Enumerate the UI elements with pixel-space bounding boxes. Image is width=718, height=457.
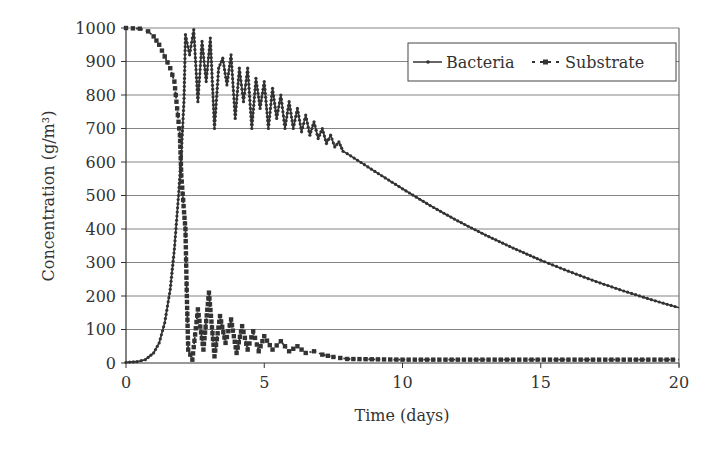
x-tick-label: 0 (121, 373, 131, 392)
x-tick-label: 5 (259, 373, 269, 392)
y-tick-label: 100 (85, 320, 116, 339)
x-axis-title: Time (days) (354, 406, 449, 425)
legend-bacteria-label: Bacteria (446, 53, 515, 72)
concentration-chart: 01002003004005006007008009001000 0510152… (0, 0, 718, 457)
x-tick-label: 20 (669, 373, 689, 392)
y-tick-label: 1000 (75, 19, 116, 38)
y-tick-label: 0 (106, 354, 116, 373)
y-tick-label: 600 (85, 153, 116, 172)
y-axis-title: Concentration (g/m³) (39, 111, 58, 282)
y-axis-ticks: 01002003004005006007008009001000 (75, 19, 126, 373)
y-tick-label: 400 (85, 220, 116, 239)
y-tick-label: 200 (85, 287, 116, 306)
legend: Bacteria Substrate (408, 43, 676, 81)
x-tick-label: 10 (392, 373, 412, 392)
y-tick-label: 900 (85, 52, 116, 71)
y-tick-label: 300 (85, 253, 116, 272)
legend-substrate-marker-icon (543, 60, 548, 65)
y-tick-label: 500 (85, 186, 116, 205)
x-tick-label: 15 (531, 373, 551, 392)
legend-bacteria-marker-icon (426, 60, 430, 64)
y-tick-label: 700 (85, 119, 116, 138)
x-axis-ticks: 05101520 (121, 363, 689, 392)
legend-substrate-label: Substrate (565, 53, 644, 72)
y-tick-label: 800 (85, 86, 116, 105)
